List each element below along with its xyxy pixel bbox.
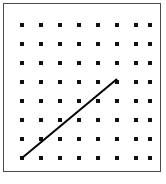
grid-dot-r6-c4 — [77, 118, 80, 121]
grid-dot-r2-c2 — [39, 42, 42, 45]
grid-dot-r4-c5 — [96, 80, 99, 83]
grid-dot-r8-c8 — [148, 156, 151, 159]
grid-dot-r3-c7 — [134, 61, 137, 64]
grid-dot-r3-c4 — [77, 61, 80, 64]
grid-dot-r8-c2 — [39, 156, 42, 159]
grid-dot-r1-c3 — [58, 23, 61, 26]
grid-dot-r5-c6 — [115, 99, 118, 102]
grid-dot-r5-c2 — [39, 99, 42, 102]
diagonal-line-segment — [22, 79, 117, 158]
grid-dot-r3-c5 — [96, 61, 99, 64]
dot-lattice-figure — [0, 0, 166, 184]
grid-dot-r7-c6 — [115, 137, 118, 140]
line-segment-layer — [22, 79, 117, 158]
grid-dot-r4-c3 — [58, 80, 61, 83]
grid-dot-r6-c3 — [58, 118, 61, 121]
grid-dot-r8-c5 — [96, 156, 99, 159]
grid-dot-r6-c6 — [115, 118, 118, 121]
grid-dot-r5-c1 — [20, 99, 23, 102]
grid-dot-r7-c7 — [134, 137, 137, 140]
grid-dot-r1-c8 — [148, 23, 151, 26]
grid-dot-r3-c3 — [58, 61, 61, 64]
grid-dot-r8-c7 — [134, 156, 137, 159]
grid-dot-r7-c4 — [77, 137, 80, 140]
grid-dot-r8-c3 — [58, 156, 61, 159]
grid-dot-r1-c6 — [115, 23, 118, 26]
grid-dot-r4-c4 — [77, 80, 80, 83]
grid-dot-r5-c7 — [134, 99, 137, 102]
grid-dot-r4-c7 — [134, 80, 137, 83]
grid-dot-r6-c2 — [39, 118, 42, 121]
grid-dot-r7-c1 — [20, 137, 23, 140]
grid-dot-r2-c6 — [115, 42, 118, 45]
grid-dot-r3-c8 — [148, 61, 151, 64]
grid-dot-r1-c4 — [77, 23, 80, 26]
grid-dot-r5-c4 — [77, 99, 80, 102]
grid-dot-r7-c8 — [148, 137, 151, 140]
grid-dot-r5-c5 — [96, 99, 99, 102]
grid-dot-r2-c7 — [134, 42, 137, 45]
grid-dot-r2-c5 — [96, 42, 99, 45]
grid-dot-r1-c5 — [96, 23, 99, 26]
grid-dot-r4-c1 — [20, 80, 23, 83]
grid-dot-r6-c5 — [96, 118, 99, 121]
grid-dot-r6-c1 — [20, 118, 23, 121]
grid-dot-r1-c1 — [20, 23, 23, 26]
grid-dot-r2-c1 — [20, 42, 23, 45]
grid-dot-r3-c6 — [115, 61, 118, 64]
grid-dot-r4-c2 — [39, 80, 42, 83]
grid-dot-r3-c2 — [39, 61, 42, 64]
grid-dot-r1-c2 — [39, 23, 42, 26]
grid-dot-r8-c4 — [77, 156, 80, 159]
grid-dot-r3-c1 — [20, 61, 23, 64]
grid-dot-r7-c3 — [58, 137, 61, 140]
grid-dot-r5-c8 — [148, 99, 151, 102]
grid-dot-r7-c5 — [96, 137, 99, 140]
grid-dot-r2-c4 — [77, 42, 80, 45]
grid-dot-r4-c8 — [148, 80, 151, 83]
grid-dot-r5-c3 — [58, 99, 61, 102]
grid-dot-r6-c8 — [148, 118, 151, 121]
grid-dot-r6-c7 — [134, 118, 137, 121]
dot-grid-layer — [20, 23, 151, 159]
grid-dot-r8-c6 — [115, 156, 118, 159]
grid-dot-r1-c7 — [134, 23, 137, 26]
grid-dot-r2-c3 — [58, 42, 61, 45]
lattice-canvas — [0, 0, 166, 184]
grid-dot-r2-c8 — [148, 42, 151, 45]
